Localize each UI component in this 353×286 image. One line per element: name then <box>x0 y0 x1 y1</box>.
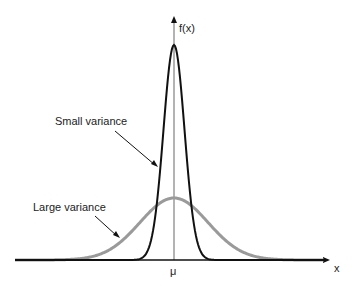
x-axis-arrow-icon <box>323 257 330 263</box>
small-variance-curve <box>15 45 324 260</box>
y-axis-arrow-icon <box>171 16 177 23</box>
arrowhead-icon <box>151 160 158 167</box>
small-variance-pointer <box>115 131 155 165</box>
large-variance-label: Large variance <box>33 201 106 213</box>
small-variance-label: Small variance <box>55 115 127 127</box>
normal-distribution-diagram: f(x) x μ Small variance Large variance <box>0 0 353 286</box>
arrowhead-icon <box>113 231 120 238</box>
x-axis-label: x <box>334 262 340 274</box>
mean-label: μ <box>170 265 176 277</box>
y-axis-label: f(x) <box>179 22 195 34</box>
large-variance-pointer <box>95 216 117 236</box>
